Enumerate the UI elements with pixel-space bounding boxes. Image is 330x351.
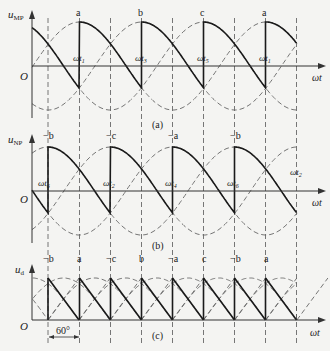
- three-phase-rectifier-waveform-figure: uMP O ωt a b c a ωt1 ωt3 ωt5 ωt1 (a) uNP…: [0, 0, 330, 351]
- panel-b-peak-label: −b: [230, 130, 241, 141]
- panel-b-time-label: ωt2: [290, 167, 302, 178]
- panel-c-x-arrow-icon: [318, 317, 326, 323]
- panel-b-time-label: ωt2: [103, 178, 115, 189]
- panel-a-time-label: ωt3: [135, 53, 147, 64]
- panel-b-caption: (b): [152, 240, 164, 252]
- panel-c-line-voltage-arcs-dashed: [33, 278, 328, 320]
- panel-a-peak-label: a: [76, 7, 81, 18]
- panel-b-time-label: ωt4: [165, 178, 177, 189]
- panel-c-top-label: a: [77, 253, 82, 264]
- panel-b-x-arrow-icon: [318, 188, 326, 194]
- panel-c-top-label: b: [139, 253, 144, 264]
- panel-b: uNP O ωt −b −c −a −b ωt6 ωt2 ωt4 ωt6 ωt2…: [8, 130, 326, 252]
- panel-c: ud O ωt −b a −c b −a c −b a 60° (c): [15, 253, 328, 342]
- panel-a: uMP O ωt a b c a ωt1 ωt3 ωt5 ωt1 (a): [8, 7, 326, 131]
- panel-b-origin: O: [20, 193, 28, 205]
- panel-a-time-label: ωt1: [259, 53, 271, 64]
- panel-b-xlabel: ωt: [312, 197, 322, 208]
- panel-b-time-label: ωt6: [227, 178, 239, 189]
- panel-c-top-label: c: [202, 253, 207, 264]
- panel-c-top-label: a: [264, 253, 269, 264]
- panel-c-origin: O: [20, 320, 28, 332]
- panel-c-top-label: −a: [168, 253, 179, 264]
- panel-b-peak-label: −c: [106, 130, 117, 141]
- panel-a-origin: O: [20, 70, 28, 82]
- panel-a-x-arrow-icon: [318, 63, 326, 69]
- panel-a-y-arrow-icon: [29, 10, 35, 19]
- interval-label: 60°: [56, 325, 70, 336]
- panel-b-ylabel: uNP: [8, 133, 23, 147]
- dim-arrow-left-icon: [49, 335, 54, 339]
- panel-c-y-arrow-icon: [29, 264, 35, 273]
- panel-a-time-label: ωt1: [73, 53, 85, 64]
- panel-a-time-label: ωt5: [197, 53, 209, 64]
- panel-a-peak-label: c: [200, 7, 205, 18]
- panel-a-peak-label: a: [262, 7, 267, 18]
- panel-c-top-label: −c: [106, 253, 117, 264]
- panel-c-caption: (c): [152, 330, 163, 342]
- panel-c-top-label: −b: [230, 253, 241, 264]
- panel-c-ylabel: ud: [15, 263, 25, 277]
- panel-b-y-arrow-icon: [29, 134, 35, 143]
- panel-a-ylabel: uMP: [8, 8, 24, 22]
- panel-a-xlabel: ωt: [312, 72, 322, 83]
- panel-a-peak-label: b: [138, 7, 143, 18]
- panel-b-peak-label: −a: [168, 130, 179, 141]
- panel-c-output-voltage-solid: [48, 278, 297, 320]
- interval-dimension-60deg: 60°: [49, 325, 79, 339]
- panel-a-caption: (a): [152, 119, 163, 131]
- dim-arrow-right-icon: [74, 335, 79, 339]
- panel-c-xlabel: ωt: [310, 327, 320, 338]
- panel-c-top-label: −b: [43, 253, 54, 264]
- panel-b-peak-label: −b: [43, 130, 54, 141]
